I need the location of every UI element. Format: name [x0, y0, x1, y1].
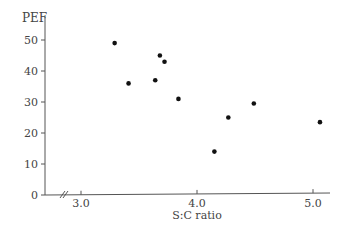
- y-tick-label: 30: [24, 96, 38, 109]
- x-axis-line: [45, 193, 330, 195]
- axes: [45, 17, 330, 198]
- x-tick-label: 3.0: [72, 197, 90, 210]
- x-axis-label: S:C ratio: [172, 209, 222, 222]
- data-point: [112, 41, 117, 46]
- data-point: [176, 97, 181, 102]
- data-point: [153, 78, 158, 83]
- y-tick-label: 10: [24, 158, 38, 171]
- data-point: [226, 115, 231, 120]
- data-points: [112, 41, 322, 154]
- data-point: [162, 59, 167, 64]
- data-point: [212, 149, 217, 154]
- y-tick-label: 0: [31, 189, 38, 202]
- y-ticks: 01020304050: [24, 34, 45, 202]
- y-tick-label: 40: [24, 65, 38, 78]
- data-point: [158, 53, 163, 58]
- y-axis-label: PEF: [22, 11, 47, 25]
- data-point: [318, 120, 323, 125]
- scatter-chart: 01020304050 3.04.05.0 PEF S:C ratio: [0, 0, 352, 230]
- data-point: [252, 101, 257, 106]
- y-tick-label: 50: [24, 34, 38, 47]
- y-tick-label: 20: [24, 127, 38, 140]
- x-tick-label: 5.0: [304, 197, 322, 210]
- data-point: [126, 81, 131, 86]
- x-ticks: 3.04.05.0: [72, 189, 322, 210]
